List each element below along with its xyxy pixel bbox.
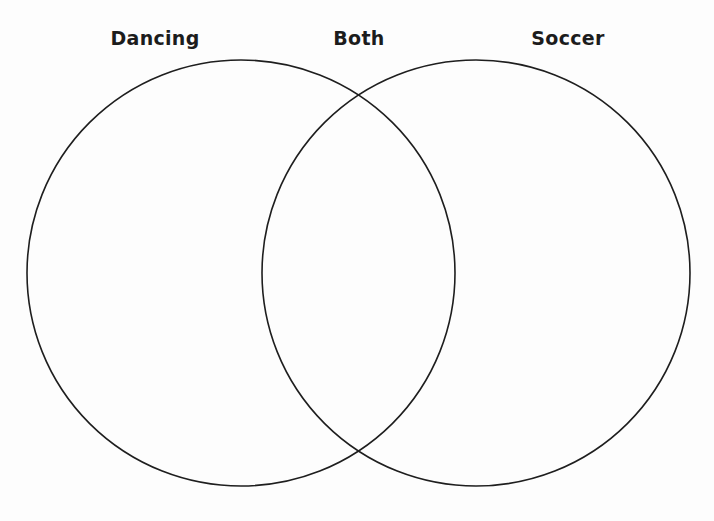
dancing-circle [27, 60, 455, 486]
soccer-label: Soccer [531, 27, 604, 49]
both-label: Both [333, 27, 384, 49]
soccer-circle [262, 60, 690, 486]
venn-diagram [0, 0, 714, 521]
dancing-label: Dancing [110, 27, 199, 49]
venn-diagram-canvas: Dancing Both Soccer [0, 0, 714, 521]
